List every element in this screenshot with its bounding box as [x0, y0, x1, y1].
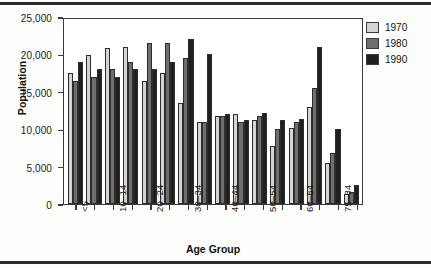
bar: [207, 54, 212, 204]
legend-swatch-icon: [366, 54, 379, 65]
x-tick-label: 60–64: [304, 185, 315, 212]
bar-group: [325, 19, 340, 204]
bar: [317, 47, 322, 204]
bar: [170, 62, 175, 204]
x-tick-label: 20–24: [154, 185, 165, 212]
x-tick-label: 40–44: [229, 185, 240, 212]
bar-group: [233, 19, 248, 204]
bar-group: [289, 19, 304, 204]
bar: [280, 120, 285, 204]
y-tick-label: 0: [46, 200, 52, 211]
legend-swatch-icon: [366, 22, 379, 33]
bar-group: [215, 19, 230, 204]
bar: [97, 69, 102, 204]
legend-label: 1990: [385, 54, 407, 65]
bar-group: [344, 19, 359, 204]
x-tick-label: 50–54: [267, 185, 278, 212]
figure-bottom-rule: [0, 261, 431, 264]
y-axis-title: Population: [16, 48, 28, 128]
y-tick-label: 25,000: [21, 13, 52, 24]
legend-item: 1970: [366, 22, 407, 33]
bar: [335, 129, 340, 204]
bar-group: [307, 19, 322, 204]
bar-group: [68, 19, 83, 204]
bar: [133, 69, 138, 204]
legend-label: 1970: [385, 22, 407, 33]
bar-group: [270, 19, 285, 204]
bar-group: [252, 19, 267, 204]
y-axis: 05,00010,00015,00020,00025,000: [0, 18, 58, 205]
bar-group: [197, 19, 212, 204]
bar-group: [123, 19, 138, 204]
legend-swatch-icon: [366, 38, 379, 49]
x-tick-label: 30–34: [192, 185, 203, 212]
population-by-age-group-figure: 05,00010,00015,00020,00025,000 Populatio…: [0, 0, 431, 268]
x-tick-label: <5: [79, 201, 90, 212]
legend-item: 1980: [366, 38, 407, 49]
bar: [244, 120, 249, 204]
plot-area: [63, 18, 363, 205]
x-axis-title: Age Group: [63, 243, 363, 255]
bar: [78, 62, 83, 204]
bar-group: [160, 19, 175, 204]
y-tick-label: 5,000: [26, 162, 52, 173]
x-tick-label: 75–84: [342, 185, 353, 212]
bar-group: [105, 19, 120, 204]
bar-group: [178, 19, 193, 204]
x-tick-label: 10–14: [117, 185, 128, 212]
figure-top-rule: [0, 2, 431, 5]
bar-group: [86, 19, 101, 204]
bar: [188, 39, 193, 204]
bar-groups: [65, 19, 361, 204]
bar: [354, 185, 359, 204]
legend-label: 1980: [385, 38, 407, 49]
bar-group: [142, 19, 157, 204]
x-axis-labels: <510–1420–2430–3440–4450–5460–6475–84: [63, 210, 363, 246]
legend: 197019801990: [366, 22, 407, 65]
legend-item: 1990: [366, 54, 407, 65]
